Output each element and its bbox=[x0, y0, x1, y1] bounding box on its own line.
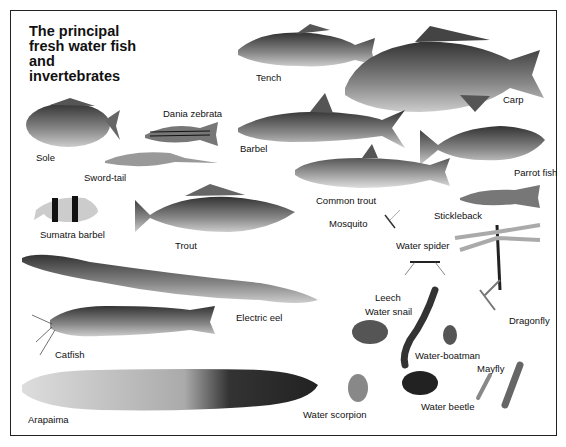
electric-eel-fish-icon bbox=[22, 255, 318, 303]
water-beetle-icon bbox=[402, 371, 438, 395]
label-mosquito: Mosquito bbox=[329, 218, 368, 229]
water-snail-icon bbox=[352, 320, 388, 344]
dania-zebrata-fish-icon bbox=[145, 122, 218, 146]
water-spider-icon bbox=[405, 262, 445, 275]
label-leech: Leech bbox=[375, 292, 401, 303]
mayfly-icon bbox=[480, 280, 500, 310]
label-electric-eel: Electric eel bbox=[236, 312, 282, 323]
label-arapaima: Arapaima bbox=[28, 414, 69, 425]
label-water-snail: Water snail bbox=[365, 306, 412, 317]
tench-fish-icon bbox=[238, 24, 375, 66]
label-water-spider: Water spider bbox=[396, 240, 450, 251]
label-barbel: Barbel bbox=[240, 143, 267, 154]
label-sole: Sole bbox=[36, 152, 55, 163]
dragonfly-icon bbox=[455, 225, 540, 290]
label-dania-zebrata: Dania zebrata bbox=[163, 108, 222, 119]
label-carp: Carp bbox=[503, 94, 524, 105]
label-water-scorpion: Water scorpion bbox=[303, 409, 367, 420]
label-common-trout: Common trout bbox=[316, 195, 376, 206]
parrot-fish-icon bbox=[420, 126, 545, 165]
label-mayfly: Mayfly bbox=[477, 363, 504, 374]
stickleback-fish-icon bbox=[460, 185, 540, 208]
sole-fish-icon bbox=[26, 98, 120, 147]
label-sword-tail: Sword-tail bbox=[84, 172, 126, 183]
label-water-beetle: Water beetle bbox=[421, 401, 475, 412]
trout-fish-icon bbox=[135, 184, 295, 232]
sumatra-barbel-fish-icon bbox=[34, 196, 98, 222]
catfish-fish-icon bbox=[32, 306, 215, 355]
label-sumatra-barbel: Sumatra barbel bbox=[40, 229, 105, 240]
mosquito-icon bbox=[385, 210, 400, 228]
label-trout: Trout bbox=[175, 240, 197, 251]
water-scorpion-icon bbox=[348, 374, 368, 402]
arapaima-fish-icon bbox=[22, 369, 318, 410]
illustration-artwork bbox=[0, 0, 566, 447]
label-catfish: Catfish bbox=[55, 349, 85, 360]
label-stickleback: Stickleback bbox=[434, 210, 482, 221]
sword-tail-fish-icon bbox=[105, 152, 218, 166]
label-parrot-fish: Parrot fish bbox=[514, 167, 557, 178]
water-boatman-icon bbox=[443, 325, 457, 345]
label-tench: Tench bbox=[256, 72, 281, 83]
label-water-boatman: Water-boatman bbox=[415, 350, 480, 361]
label-dragonfly: Dragonfly bbox=[509, 315, 550, 326]
